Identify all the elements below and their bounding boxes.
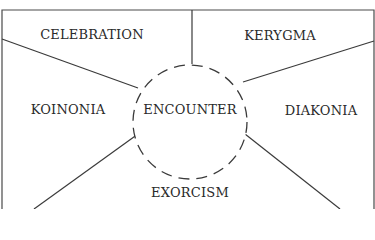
- spoke-upper-right: [243, 41, 374, 82]
- spoke-lower-left: [34, 134, 138, 209]
- region-label-koinonia: KOINONIA: [31, 102, 106, 117]
- region-label-diakonia: DIAKONIA: [285, 103, 357, 118]
- center-label-encounter: ENCOUNTER: [143, 102, 237, 117]
- encounter-circle: [133, 65, 247, 179]
- region-label-kerygma: KERYGMA: [244, 28, 316, 43]
- region-label-celebration: CELEBRATION: [40, 27, 144, 42]
- region-label-exorcism: EXORCISM: [151, 185, 229, 200]
- spoke-upper-left: [2, 39, 138, 88]
- spoke-lower-right: [245, 134, 340, 209]
